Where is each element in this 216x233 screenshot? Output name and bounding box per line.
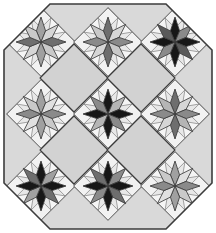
quilt-canvas (0, 0, 216, 233)
quilt-illustration (0, 0, 216, 233)
star-blocks-layer (7, 8, 209, 220)
quilt-body (0, 0, 216, 233)
